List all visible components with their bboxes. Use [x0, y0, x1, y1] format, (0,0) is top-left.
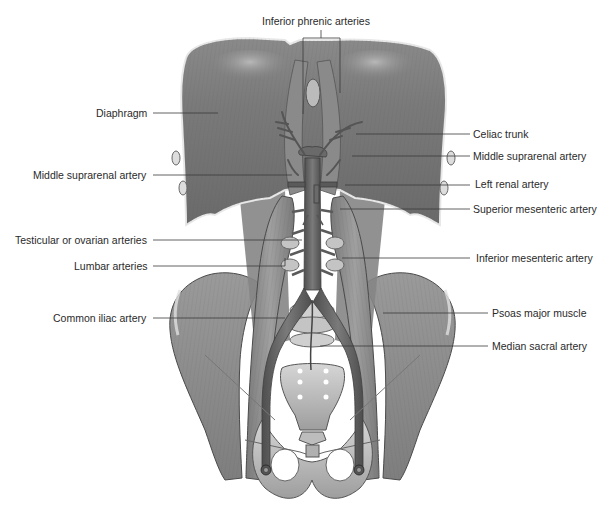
- label-median-sacral-artery: Median sacral artery: [492, 340, 587, 352]
- label-common-iliac-artery: Common iliac artery: [53, 312, 146, 324]
- label-celiac-trunk: Celiac trunk: [473, 128, 528, 140]
- label-lumbar-arteries: Lumbar arteries: [74, 260, 148, 272]
- label-left-renal-artery: Left renal artery: [475, 178, 549, 190]
- label-psoas-major-muscle: Psoas major muscle: [492, 307, 587, 319]
- label-inferior-phrenic-arteries: Inferior phrenic arteries: [262, 15, 370, 27]
- label-superior-mesenteric-artery: Superior mesenteric artery: [473, 203, 597, 215]
- label-middle-suprarenal-artery-right: Middle suprarenal artery: [473, 150, 586, 162]
- sacrum: [280, 364, 344, 458]
- anatomy-figure: Inferior phrenic arteries Diaphragm Midd…: [0, 0, 608, 507]
- label-diaphragm: Diaphragm: [96, 107, 147, 119]
- label-middle-suprarenal-artery-left: Middle suprarenal artery: [33, 169, 146, 181]
- label-testicular-ovarian-arteries: Testicular or ovarian arteries: [15, 234, 147, 246]
- label-inferior-mesenteric-artery: Inferior mesenteric artery: [476, 252, 593, 264]
